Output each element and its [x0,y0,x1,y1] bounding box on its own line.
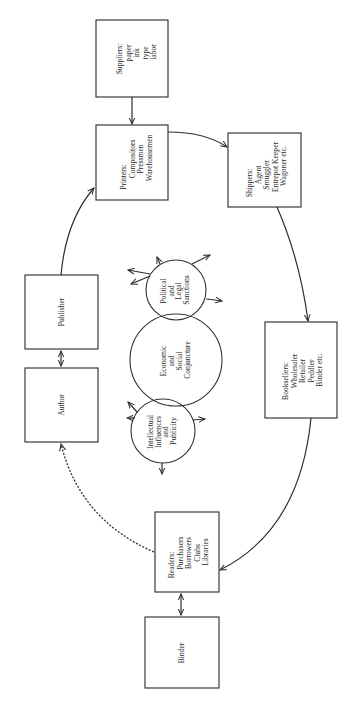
author-node: Author [25,368,98,442]
svg-text:Economic and Socia: Economic and Social Conjuncture [159,341,192,379]
suppliers-node: Suppliers: paper ink type labor [96,20,168,97]
edge-publisher-printers [61,188,94,275]
edge-shippers-booksellers [277,207,308,321]
binder-node: Binder [145,617,219,688]
shippers-line: Wagoner etc. [279,146,288,186]
booksellers-line: Binder etc. [315,353,324,386]
political-line: Sanctions [182,275,191,305]
binder-title: Binder [177,642,186,663]
suppliers-line: labor [149,44,158,60]
svg-text:Intellectual Influences: Intellectual Influences and Publicity [146,413,178,449]
shippers-node: Shippers: Agent Smuggler Entrepot Keeper… [228,133,301,207]
svg-text:Political and Lega: Political and Legal Sanctions [159,275,191,305]
political-legal-circle: Political and Legal Sanctions [146,260,206,320]
edge-printers-shippers [168,132,227,147]
printers-line: Warehousemen [145,134,154,181]
intellectual-line: Publicity [169,417,178,445]
communications-circuit-diagram: Suppliers: paper ink type labor Printers… [0,0,348,721]
economic-social-circle: Economic and Social Conjuncture [130,314,222,406]
svg-text:Author: Author [57,394,66,416]
readers-line: Libraries [201,538,210,565]
edge-booksellers-readers [220,418,311,570]
economic-line: Conjuncture [183,341,192,379]
publisher-title: Publisher [57,297,66,326]
booksellers-node: Booksellers: Wholesaler Retailer Peddler… [265,322,337,418]
readers-node: Readers: Purchasers Borrowers Clubs Libr… [155,512,219,592]
author-title: Author [57,394,66,416]
edge-readers-author [61,444,154,552]
printers-node: Printers: Compositors Pressmen Warehouse… [96,125,168,200]
publisher-node: Publisher [25,275,98,349]
svg-text:Binder: Binder [177,642,186,663]
intellectual-publicity-circle: Intellectual Influences and Publicity [131,399,195,463]
svg-text:Publisher: Publisher [57,297,66,326]
